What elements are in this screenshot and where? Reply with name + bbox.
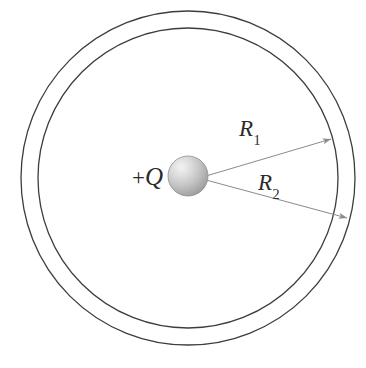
charge-label: +Q: [132, 163, 163, 191]
radius-1-label: R1: [239, 116, 260, 146]
charge-symbol: Q: [145, 163, 163, 190]
physics-diagram-canvas: +Q R1 R2: [0, 0, 366, 368]
radius-2-subscript: 2: [272, 186, 279, 202]
point-charge-sphere: [168, 156, 208, 196]
radius-2-label: R2: [258, 170, 279, 200]
diagram-svg: [0, 0, 366, 368]
radius-2-symbol: R: [258, 170, 272, 195]
charge-sign: +: [132, 165, 145, 190]
radius-1-symbol: R: [239, 116, 253, 141]
radius-1-subscript: 1: [253, 132, 260, 148]
